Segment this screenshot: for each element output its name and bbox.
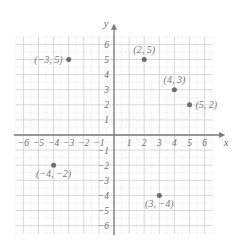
- data-point: [187, 102, 192, 107]
- point-coordinate-label: (4, 3): [164, 74, 186, 86]
- point-coordinate-label: (−4, −2): [36, 168, 72, 180]
- x-tick-label: −5: [33, 138, 44, 148]
- y-tick-label: 6: [104, 40, 109, 50]
- data-point: [66, 57, 71, 62]
- y-tick-label: 3: [103, 85, 109, 95]
- coordinate-grid-svg: −6−5−4−3−2−1123456654321−1−2−3−4−5−6 xy …: [0, 0, 251, 252]
- x-tick-label: 2: [142, 138, 147, 148]
- data-point: [51, 163, 56, 168]
- y-tick-label: −2: [98, 161, 109, 171]
- x-tick-label: 1: [127, 138, 132, 148]
- x-tick-label: −4: [48, 138, 59, 148]
- y-tick-label: 1: [104, 115, 109, 125]
- y-tick-label: −3: [98, 176, 109, 186]
- x-tick-label: 4: [172, 138, 177, 148]
- x-tick-label: 3: [156, 138, 162, 148]
- data-point: [157, 193, 162, 198]
- y-axis-label: y: [103, 18, 109, 29]
- y-tick-label: 4: [104, 70, 109, 80]
- data-point: [142, 57, 147, 62]
- x-tick-label: −2: [78, 138, 89, 148]
- y-tick-label: −1: [98, 146, 109, 156]
- point-coordinate-label: (5, 2): [196, 99, 218, 111]
- x-tick-label: −3: [63, 138, 74, 148]
- point-coordinate-label: (3, −4): [145, 198, 174, 210]
- point-coordinate-label: (2, 5): [133, 44, 155, 56]
- coordinate-plane-figure: −6−5−4−3−2−1123456654321−1−2−3−4−5−6 xy …: [0, 0, 251, 252]
- y-tick-label: −4: [98, 191, 109, 201]
- data-point: [172, 87, 177, 92]
- y-tick-label: 2: [104, 100, 109, 110]
- x-tick-label: 5: [187, 138, 192, 148]
- y-tick-label: −5: [98, 206, 109, 216]
- point-coordinate-label: (−3, 5): [34, 54, 63, 66]
- y-tick-label: −6: [98, 221, 109, 231]
- x-tick-label: 6: [202, 138, 207, 148]
- x-tick-label: −6: [18, 138, 29, 148]
- x-axis-label: x: [223, 137, 229, 148]
- y-tick-label: 5: [104, 55, 109, 65]
